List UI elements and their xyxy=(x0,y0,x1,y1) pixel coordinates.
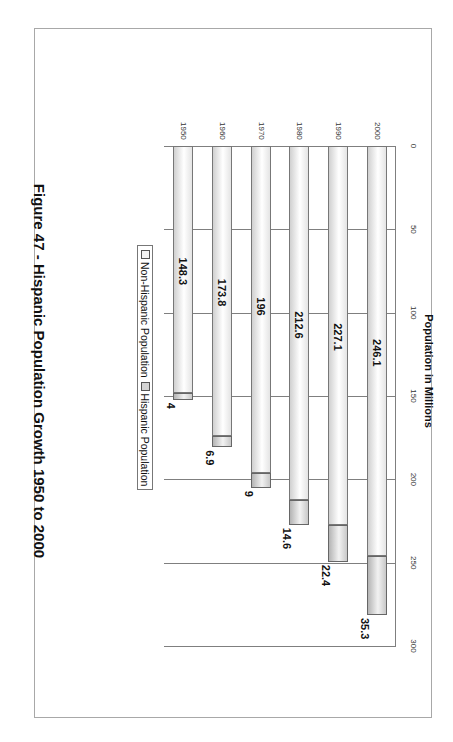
rotated-chart: Population in Millions 05010015020025030… xyxy=(0,0,453,742)
legend: Non-Hispanic Population Hispanic Populat… xyxy=(137,245,153,490)
data-label-hispanic: 22.4 xyxy=(320,565,332,586)
bar-hispanic xyxy=(328,525,348,562)
data-label-non-hispanic: 173.8 xyxy=(216,279,228,307)
data-label-hispanic: 35.3 xyxy=(359,618,371,639)
legend-swatch-hispanic xyxy=(141,382,150,391)
legend-label-non-hispanic: Non-Hispanic Population xyxy=(139,262,151,378)
y-category-label: 2000 xyxy=(372,122,381,140)
x-axis-title: Population in Millions xyxy=(423,0,435,742)
x-tick-label: 200 xyxy=(409,473,418,486)
data-label-hispanic: 6.9 xyxy=(204,450,216,465)
x-tick-label: 250 xyxy=(409,556,418,569)
y-category-label: 1990 xyxy=(334,122,343,140)
data-label-non-hispanic: 212.6 xyxy=(293,311,305,339)
y-category-label: 1950 xyxy=(179,122,188,140)
data-label-non-hispanic: 246.1 xyxy=(371,339,383,367)
gridline xyxy=(164,646,396,647)
data-label-non-hispanic: 148.3 xyxy=(177,258,189,286)
bar-hispanic xyxy=(367,556,387,615)
bar-hispanic xyxy=(251,473,271,488)
legend-swatch-non-hispanic xyxy=(141,250,150,259)
bar-hispanic xyxy=(173,393,193,400)
x-tick-label: 150 xyxy=(409,389,418,402)
y-category-label: 1960 xyxy=(218,122,227,140)
data-label-non-hispanic: 227.1 xyxy=(332,323,344,351)
gridline xyxy=(164,479,396,480)
gridline xyxy=(164,563,396,564)
plot-area: 0501001502002503002000246.135.31990227.1… xyxy=(164,146,396,646)
gridline xyxy=(164,313,396,314)
x-tick-label: 100 xyxy=(409,306,418,319)
data-label-non-hispanic: 196 xyxy=(255,297,267,315)
data-label-hispanic: 14.6 xyxy=(281,528,293,549)
bar-hispanic xyxy=(212,436,232,448)
x-tick-label: 50 xyxy=(409,225,418,234)
y-axis-line xyxy=(164,146,396,147)
figure-caption: Figure 47 - Hispanic Population Growth 1… xyxy=(31,0,48,742)
gridline xyxy=(164,396,396,397)
bar-hispanic xyxy=(289,500,309,524)
data-label-hispanic: 4 xyxy=(165,403,177,409)
x-tick-label: 0 xyxy=(409,144,418,148)
legend-label-hispanic: Hispanic Population xyxy=(139,394,151,487)
y-category-label: 1970 xyxy=(256,122,265,140)
x-tick-label: 300 xyxy=(409,639,418,652)
gridline xyxy=(164,229,396,230)
data-label-hispanic: 9 xyxy=(243,491,255,497)
y-category-label: 1980 xyxy=(295,122,304,140)
